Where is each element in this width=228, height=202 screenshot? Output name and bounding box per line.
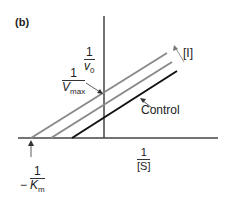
- inhibitor-label: [I]: [183, 46, 193, 60]
- km-arrowhead-icon: [28, 140, 34, 146]
- km-numerator: 1: [30, 165, 45, 179]
- x-axis-label: 1 [S]: [137, 146, 150, 173]
- km-sign: −: [20, 178, 27, 192]
- vmax-label: 1 Vmax: [62, 67, 85, 98]
- vmax-arrowhead-icon: [97, 89, 103, 94]
- vmax-numerator: 1: [62, 67, 85, 81]
- control-label: Control: [141, 103, 180, 117]
- km-label: 1 Km: [30, 165, 45, 196]
- y-label-numerator: 1: [84, 46, 95, 60]
- vmax-pointer: [86, 83, 100, 92]
- inhibitor-line-high: [31, 53, 167, 138]
- km-denominator: Km: [30, 179, 45, 196]
- y-label-denominator: v0: [84, 60, 95, 77]
- panel-label: (b): [15, 16, 29, 28]
- vmax-denominator: Vmax: [62, 81, 85, 98]
- x-label-numerator: 1: [137, 146, 150, 160]
- y-axis-label: 1 v0: [84, 46, 95, 77]
- x-label-denominator: [S]: [137, 160, 150, 173]
